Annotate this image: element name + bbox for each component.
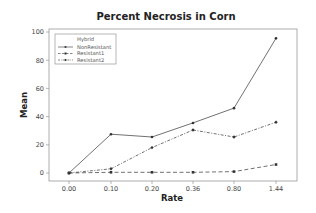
x-axis-label: Rate xyxy=(161,193,183,203)
marker-square xyxy=(192,171,195,174)
x-tick-label: 0.10 xyxy=(104,185,118,193)
y-tick-label: 100 xyxy=(32,28,44,36)
x-tick-label: 0.36 xyxy=(186,185,200,193)
marker-circle xyxy=(275,37,278,40)
marker-square xyxy=(233,170,236,173)
x-tick-label: 0.20 xyxy=(145,185,159,193)
marker-circle xyxy=(192,122,195,125)
y-tick-label: 20 xyxy=(36,141,44,149)
marker-circle xyxy=(151,136,154,139)
x-tick-label: 1.44 xyxy=(269,185,283,193)
marker-square xyxy=(110,171,113,174)
legend-title: Hybrid xyxy=(77,36,94,43)
line-chart: Percent Necrosis in Corn 020406080100 0.… xyxy=(0,0,316,213)
x-tick-label: 0.80 xyxy=(227,185,241,193)
legend-items: NonResistantResistant1Resistant2 xyxy=(58,44,111,63)
y-tick-label: 0 xyxy=(40,169,44,177)
chart: Percent Necrosis in Corn 020406080100 0.… xyxy=(0,0,316,213)
y-tick-label: 60 xyxy=(36,85,44,93)
chart-title: Percent Necrosis in Corn xyxy=(96,11,235,22)
x-tick-label: 0.00 xyxy=(62,185,76,193)
legend-label: Resistant1 xyxy=(77,50,104,56)
marker-circle xyxy=(233,107,236,110)
marker-square xyxy=(151,171,154,174)
legend-label: NonResistant xyxy=(77,44,111,50)
y-tick-label: 40 xyxy=(36,113,44,121)
x-axis: 0.000.100.200.360.801.44 xyxy=(62,181,283,193)
legend-label: Resistant2 xyxy=(77,57,104,63)
y-axis: 020406080100 xyxy=(32,28,49,177)
marker-circle xyxy=(65,46,67,48)
marker-square xyxy=(275,163,278,166)
y-tick-label: 80 xyxy=(36,57,44,65)
marker-square xyxy=(65,53,67,55)
marker-circle xyxy=(110,133,113,136)
y-axis-label: Mean xyxy=(19,92,29,118)
legend: Hybrid NonResistantResistant1Resistant2 xyxy=(55,34,116,64)
